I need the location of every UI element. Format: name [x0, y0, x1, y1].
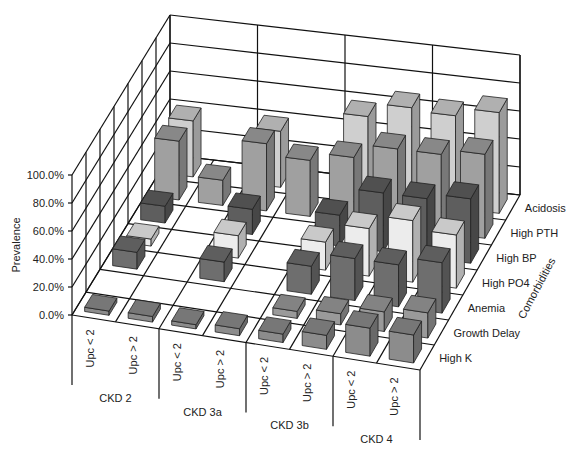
category-label: Upc > 2: [214, 350, 226, 388]
bar-front-face: [287, 263, 311, 295]
y-tick-label: 100.0%: [27, 169, 65, 181]
group-label: CKD 2: [99, 392, 131, 404]
y-tick-label: 20.0%: [33, 281, 64, 293]
bar-front-face: [155, 138, 179, 200]
comorbidity-label: Growth Delay: [453, 327, 520, 339]
bar-high-k: [259, 317, 291, 343]
bar-front-face: [346, 324, 370, 356]
bar-anemia: [287, 249, 319, 294]
comorbidity-label: High K: [439, 352, 473, 364]
group-label: CKD 3a: [183, 406, 222, 418]
bar-high-bp: [141, 190, 173, 223]
chart-bars: [85, 91, 508, 363]
y-tick-label: 60.0%: [33, 225, 64, 237]
category-label: Upc < 2: [258, 357, 270, 395]
bar-high-k: [302, 318, 334, 349]
bar-high-pth: [198, 164, 230, 205]
group-label: CKD 4: [360, 433, 392, 445]
comorbidity-label: High PTH: [511, 227, 559, 239]
bar-anemia: [331, 241, 363, 300]
bar-high-k: [85, 294, 117, 315]
bar-side-face: [485, 140, 493, 238]
y-axis-title: Prevalence: [10, 217, 22, 272]
category-label: Upc > 2: [388, 377, 400, 415]
bar-high-k: [172, 308, 204, 329]
category-label: Upc > 2: [301, 364, 313, 402]
bar-front-face: [286, 157, 310, 216]
bar-high-pth: [155, 125, 187, 200]
bar-high-k: [346, 311, 378, 357]
bar-high-k: [215, 312, 247, 336]
category-label: Upc > 2: [127, 336, 139, 374]
y-tick-label: 40.0%: [33, 253, 64, 265]
comorbidity-label: Anemia: [468, 302, 506, 314]
bar-side-face: [499, 99, 507, 214]
bar-growth-delay: [273, 294, 305, 318]
bar-high-k: [389, 317, 421, 363]
y-tick-label: 0.0%: [39, 309, 64, 321]
bar-side-face: [267, 130, 275, 210]
bar-front-face: [389, 331, 413, 363]
bar-high-pth: [286, 144, 318, 216]
bar-front-face: [331, 255, 355, 301]
3d-bar-chart: 0.0%20.0%40.0%60.0%80.0%100.0%Prevalence…: [0, 0, 571, 452]
category-label: Upc < 2: [171, 343, 183, 381]
category-label: Upc < 2: [345, 371, 357, 409]
comorbidity-label: High PO4: [482, 277, 530, 289]
comorbidity-label: Acidosis: [525, 202, 566, 214]
category-label: Upc < 2: [84, 329, 96, 367]
group-label: CKD 3b: [270, 419, 309, 431]
bar-anemia: [113, 236, 145, 269]
comorbidity-label: High BP: [496, 252, 536, 264]
bar-high-k: [128, 300, 160, 322]
bar-front-face: [198, 177, 222, 205]
y-tick-label: 80.0%: [33, 197, 64, 209]
bar-front-face: [200, 259, 224, 282]
bar-anemia: [200, 245, 232, 281]
